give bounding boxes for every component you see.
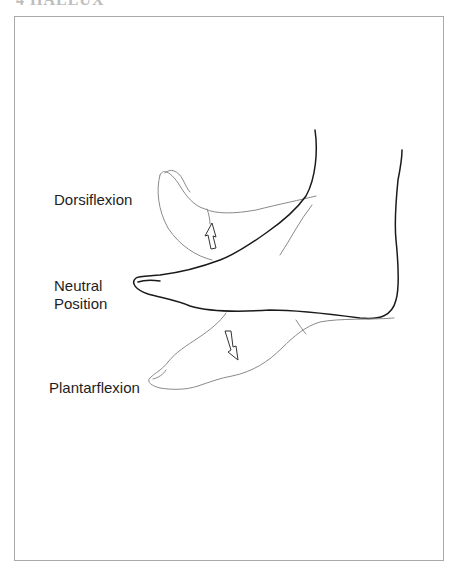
label-neutral-position: Neutral Position — [54, 277, 107, 313]
label-neutral-line1: Neutral — [54, 277, 107, 295]
arrow-down-icon — [225, 331, 238, 360]
neutral-foot-outline — [134, 130, 402, 318]
plantarflexion-foot-outline — [149, 313, 394, 389]
label-neutral-line2: Position — [54, 295, 107, 313]
arrow-up-icon — [205, 223, 216, 249]
label-plantarflexion: Plantarflexion — [49, 379, 140, 397]
label-dorsiflexion: Dorsiflexion — [54, 191, 132, 209]
dorsiflexion-foot-outline — [158, 170, 316, 260]
